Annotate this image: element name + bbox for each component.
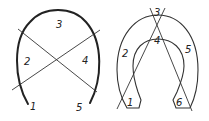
horseshoe-outline (117, 15, 198, 108)
region-label-1: 1 (30, 101, 36, 112)
diagram-canvas: 1 2 3 4 5 1 2 3 4 5 6 (0, 0, 209, 121)
horseshoe-right-figure: 1 2 3 4 5 6 (117, 7, 198, 111)
region-label-3: 3 (56, 19, 62, 30)
region-label-4: 4 (154, 35, 160, 46)
region-label-4: 4 (82, 55, 88, 66)
arch-left-figure: 1 2 3 4 5 (12, 10, 100, 113)
region-label-2: 2 (24, 56, 30, 67)
region-label-6: 6 (176, 97, 182, 108)
region-label-1: 1 (127, 97, 133, 108)
region-label-5: 5 (76, 102, 82, 113)
region-label-2: 2 (122, 48, 128, 59)
region-label-3: 3 (154, 7, 160, 18)
region-label-5: 5 (185, 44, 191, 55)
diagonal-line-d (150, 8, 192, 111)
